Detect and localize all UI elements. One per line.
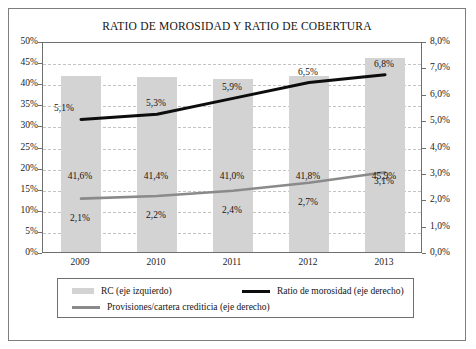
right-axis-tick-label: 8,0%	[430, 37, 450, 47]
chart-title: RATIO DE MOROSIDAD Y RATIO DE COBERTURA	[8, 20, 466, 32]
right-axis-tick-label: 5,0%	[430, 116, 450, 126]
bar-value-label: 41,4%	[144, 172, 169, 182]
morosidad-value-label: 5,9%	[222, 83, 242, 93]
left-axis-tick-label: 45%	[4, 58, 38, 68]
bar-value-label: 41,0%	[220, 172, 245, 182]
legend-swatch-bar-icon	[72, 288, 94, 294]
legend-label-rc: RC (eje izquierdo)	[101, 286, 172, 296]
x-axis-label: 2010	[147, 257, 166, 267]
left-axis-tick-label: 50%	[4, 37, 38, 47]
x-axis-label: 2011	[223, 257, 242, 267]
legend-item-morosidad: Ratio de morosidad (eje derecho)	[242, 286, 404, 296]
legend-swatch-line-black-icon	[242, 290, 270, 293]
provisiones-value-label: 2,4%	[222, 206, 242, 216]
morosidad-value-label: 5,3%	[146, 99, 166, 109]
legend-item-rc: RC (eje izquierdo)	[72, 286, 172, 296]
morosidad-value-label: 6,5%	[298, 68, 318, 78]
legend-swatch-line-gray-icon	[72, 306, 100, 309]
line-morosidad	[81, 75, 385, 120]
x-axis-label: 2012	[299, 257, 318, 267]
bar-value-label: 41,8%	[296, 172, 321, 182]
line-series-overlay	[43, 43, 423, 254]
left-axis-tick-label: 40%	[4, 79, 38, 89]
left-axis-tick-label: 10%	[4, 206, 38, 216]
bar-value-label: 41,6%	[68, 172, 93, 182]
right-axis-tick-label: 6,0%	[430, 90, 450, 100]
legend: RC (eje izquierdo) Ratio de morosidad (e…	[57, 278, 414, 318]
x-axis-label: 2013	[375, 257, 394, 267]
chart-figure: RATIO DE MOROSIDAD Y RATIO DE COBERTURA …	[0, 0, 476, 349]
right-axis-tick-label: 0,0%	[430, 248, 450, 258]
left-axis-tick-label: 20%	[4, 164, 38, 174]
left-axis-tick-label: 25%	[4, 143, 38, 153]
provisiones-value-label: 3,1%	[374, 177, 394, 187]
right-axis-tick-label: 7,0%	[430, 63, 450, 73]
plot-area	[42, 42, 422, 253]
left-axis-tick-label: 15%	[4, 185, 38, 195]
right-axis-tick-label: 4,0%	[430, 143, 450, 153]
morosidad-value-label: 6,8%	[374, 60, 394, 70]
right-axis-tick-label: 2,0%	[430, 195, 450, 205]
x-axis-label: 2009	[71, 257, 90, 267]
morosidad-value-label: 5,1%	[54, 104, 74, 114]
legend-label-morosidad: Ratio de morosidad (eje derecho)	[277, 286, 404, 296]
right-axis-tick-label: 3,0%	[430, 169, 450, 179]
legend-item-provisiones: Provisiones/cartera crediticia (eje dere…	[72, 302, 270, 312]
left-axis-tick-label: 30%	[4, 121, 38, 131]
left-axis-tick-label: 35%	[4, 100, 38, 110]
provisiones-value-label: 2,2%	[146, 211, 166, 221]
provisiones-value-label: 2,1%	[70, 214, 90, 224]
right-axis-tick-label: 1,0%	[430, 222, 450, 232]
legend-label-provisiones: Provisiones/cartera crediticia (eje dere…	[107, 302, 270, 312]
left-axis-tick-label: 5%	[4, 227, 38, 237]
provisiones-value-label: 2,7%	[298, 198, 318, 208]
left-axis-tick	[38, 253, 42, 254]
left-axis-tick-label: 0%	[4, 248, 38, 258]
